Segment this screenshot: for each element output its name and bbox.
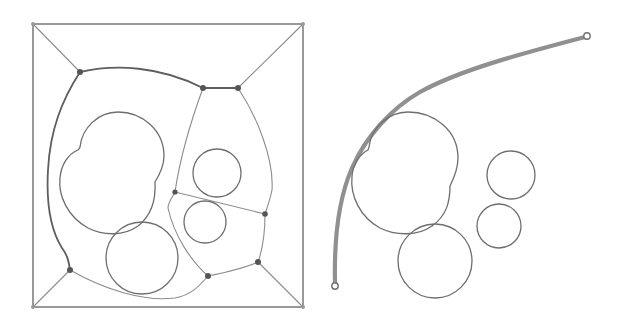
corner-tr-marker — [301, 22, 305, 26]
vertex-b — [200, 85, 206, 91]
edge-c-e — [238, 88, 272, 214]
vertex-g — [205, 273, 211, 279]
edge-g-h — [208, 262, 258, 276]
obstacle-circle-upper-right — [193, 149, 241, 197]
vertex-c — [235, 85, 241, 91]
figure-canvas — [0, 0, 618, 328]
vertex-f — [67, 267, 73, 273]
vertex-h — [255, 259, 261, 265]
corner-bl-marker — [31, 305, 35, 309]
edge-corner-tl — [33, 24, 80, 72]
left-panel-roadmap — [31, 22, 305, 309]
boundary-square — [33, 24, 303, 307]
obstacle-blob-merged-circles — [60, 112, 164, 234]
edge-corner-br — [258, 262, 303, 307]
edge-b-d — [175, 88, 203, 192]
edge-e-h — [258, 214, 265, 262]
obstacle-circle-lower-small — [477, 204, 521, 248]
vertex-d — [172, 189, 177, 194]
path-start-marker — [332, 283, 338, 289]
obstacle-blob-merged-circles-right — [352, 112, 458, 234]
planned-path-curve — [335, 37, 585, 283]
vertex-e — [262, 211, 268, 217]
vertex-a — [77, 69, 83, 75]
edge-a-b — [80, 68, 203, 88]
edge-d-e — [175, 192, 265, 214]
obstacle-circle-lower-right — [184, 201, 226, 243]
edge-a-f — [48, 72, 80, 270]
corner-tl-marker — [31, 22, 35, 26]
obstacle-circle-bottom-right — [398, 224, 472, 298]
edge-corner-bl — [33, 270, 70, 307]
edge-corner-tr — [238, 24, 303, 88]
obstacle-circle-bottom — [106, 222, 178, 294]
path-end-marker — [584, 33, 590, 39]
obstacle-circle-upper-small — [487, 151, 535, 199]
right-panel-path — [332, 33, 590, 298]
corner-br-marker — [301, 305, 305, 309]
